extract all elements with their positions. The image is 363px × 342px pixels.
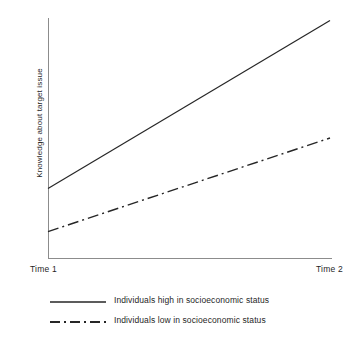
legend-label-low-ses: Individuals low in socioeconomic status <box>114 314 266 326</box>
solid-line-swatch <box>50 296 106 308</box>
chart-legend: Individuals high in socioeconomic status… <box>0 292 363 332</box>
y-axis-label: Knowledge about target issue <box>35 35 45 211</box>
x-axis-line <box>48 258 332 259</box>
dash-dot-line-swatch <box>50 316 106 328</box>
legend-item-high-ses: Individuals high in socioeconomic status <box>0 292 363 312</box>
legend-item-low-ses: Individuals low in socioeconomic status <box>0 312 363 332</box>
series-line-low-ses <box>48 138 330 232</box>
legend-label-high-ses: Individuals high in socioeconomic status <box>114 294 269 306</box>
y-axis-line <box>48 18 49 259</box>
chart-figure: Knowledge about target issue Time 1 Time… <box>0 0 363 342</box>
x-axis-tick-time-2: Time 2 <box>316 264 343 274</box>
x-axis-tick-time-1: Time 1 <box>30 264 57 274</box>
plot-series-layer <box>0 0 363 342</box>
series-line-high-ses <box>48 20 330 188</box>
